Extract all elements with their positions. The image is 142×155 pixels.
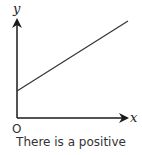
y-axis-label: y <box>12 1 21 16</box>
positive-trend-line <box>17 21 128 91</box>
x-axis-label: x <box>130 110 138 125</box>
caption: There is a positive <box>0 135 142 149</box>
origin-label: O <box>12 122 21 136</box>
line-graph: y x O <box>0 0 142 155</box>
